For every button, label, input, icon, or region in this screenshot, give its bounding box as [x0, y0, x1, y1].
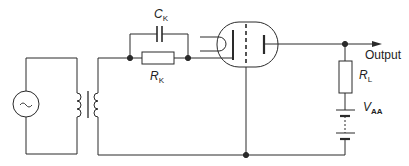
- circuit-diagram: CK RK Output RL VAA: [0, 0, 409, 166]
- heater-filament: [219, 37, 226, 51]
- cathode-capacitor: [130, 26, 188, 58]
- ground-node: [243, 152, 248, 157]
- label-rl: RL: [359, 69, 372, 81]
- junction-node: [127, 55, 132, 60]
- label-ck: CK: [154, 8, 168, 20]
- label-rk: RK: [150, 70, 164, 82]
- ac-source: [13, 58, 77, 154]
- load-resistor: [339, 44, 352, 110]
- cathode-resistor: [130, 52, 188, 64]
- transformer-secondary-coil: [94, 58, 98, 155]
- label-output: Output: [365, 49, 401, 61]
- transformer-primary-coil: [77, 58, 81, 154]
- output-arrow-icon: [372, 41, 382, 47]
- label-vaa: VAA: [363, 101, 383, 113]
- battery-vaa: [336, 110, 355, 155]
